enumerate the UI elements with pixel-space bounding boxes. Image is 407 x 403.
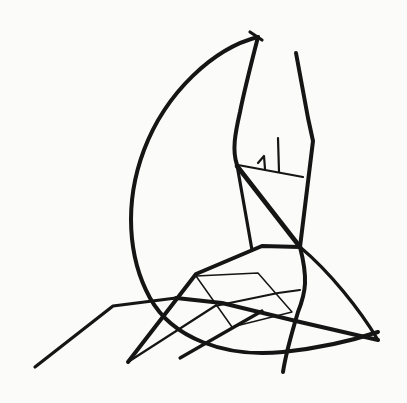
drawing-canvas: Abstract line drawing Continuous-line ab… bbox=[0, 0, 407, 403]
mast-tick bbox=[278, 138, 279, 172]
line-drawing bbox=[0, 0, 407, 403]
